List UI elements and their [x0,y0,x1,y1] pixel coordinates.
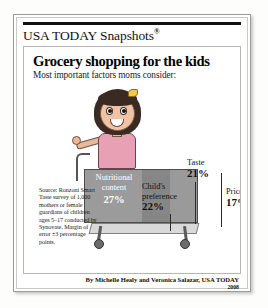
chart-panel: Grocery shopping for the kids Most impor… [23,46,241,274]
byline-year: 2008 [23,284,241,290]
leader-line-price [221,173,222,227]
mom-hand [72,136,81,145]
byline: By Michelle Healy and Veronica Salazar, … [23,276,241,283]
label-nutritional-line1: Nutritional [86,173,142,183]
label-price-value: 17% [226,198,241,208]
mom-pupil-left [108,109,112,113]
cart-wheel-right [180,239,190,249]
masthead-rule [23,22,241,25]
mom-torso [98,133,136,169]
page-subtitle: Most important factors moms consider: [33,70,176,80]
mom-pupil-right [122,109,126,113]
registered-mark: ® [154,27,160,36]
masthead-brand: USA TODAY Snapshots® [23,27,243,44]
leader-line-taste [195,182,196,224]
label-child-value: 22% [142,202,177,212]
source-note: Source: Ronzoni Smart Taste survey of 1,… [39,187,101,246]
label-price: Price 17% [226,187,241,207]
masthead-brand-text: USA TODAY Snapshots [23,28,154,43]
snapshot-card: USA TODAY Snapshots® Grocery shopping fo… [13,14,251,292]
leader-line-child [170,214,171,231]
label-taste-value: 21% [187,169,209,179]
label-child-line1: Child's [142,182,177,192]
snapshot-infographic: USA TODAY Snapshots® Grocery shopping fo… [0,0,268,308]
label-taste: Taste 21% [187,158,209,178]
hair-bow-icon [128,89,138,97]
page-title: Grocery shopping for the kids [33,53,210,70]
label-child-preference: Child's preference 22% [142,182,177,212]
